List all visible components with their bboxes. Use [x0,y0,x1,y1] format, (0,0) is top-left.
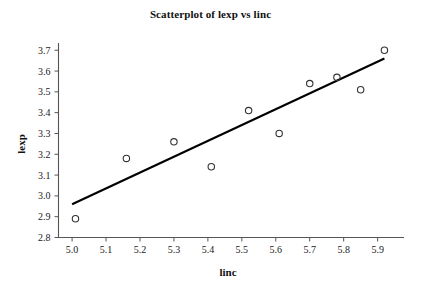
data-point [334,74,340,80]
data-point [245,107,251,113]
x-tick-label: 5.6 [270,244,283,255]
data-point [357,87,363,93]
data-point [208,164,214,170]
y-tick-label: 3.4 [38,107,51,118]
y-tick-label: 2.9 [38,211,51,222]
x-tick-label: 5.7 [303,244,316,255]
y-axis-label: lexp [15,134,27,154]
x-tick-label: 5.9 [371,244,384,255]
y-tick-label: 3.5 [38,86,51,97]
x-axis-label: linc [219,266,236,278]
plot-canvas: 2.82.93.03.13.23.33.43.53.63.7 5.05.15.2… [0,0,421,284]
y-tick-label: 3.7 [38,45,51,56]
y-tick-label: 3.6 [38,66,51,77]
y-tick-label: 3.2 [38,149,51,160]
x-tick-label: 5.0 [66,244,79,255]
y-tick-label: 3.1 [38,170,51,181]
y-tick-label: 2.8 [38,232,51,243]
x-axis-tick-labels: 5.05.15.25.35.45.55.65.75.85.9 [66,244,384,255]
x-tick-label: 5.3 [168,244,181,255]
axis-lines [59,43,405,238]
y-axis-tick-labels: 2.82.93.03.13.23.33.43.53.63.7 [38,45,51,243]
x-tick-label: 5.5 [236,244,249,255]
x-tick-label: 5.1 [100,244,113,255]
data-point [381,47,387,53]
x-axis-tick-marks [72,238,378,242]
y-tick-label: 3.3 [38,128,51,139]
data-point [171,139,177,145]
data-point [123,155,129,161]
data-point [72,216,78,222]
data-point [307,80,313,86]
y-axis-tick-marks [55,50,59,237]
data-point-group [72,47,387,222]
x-tick-label: 5.4 [202,244,215,255]
x-tick-label: 5.2 [134,244,147,255]
x-tick-label: 5.8 [337,244,350,255]
y-tick-label: 3.0 [38,190,51,201]
data-point [276,130,282,136]
scatterplot-figure: Scatterplot of lexp vs linc 2.82.93.03.1… [0,0,421,284]
